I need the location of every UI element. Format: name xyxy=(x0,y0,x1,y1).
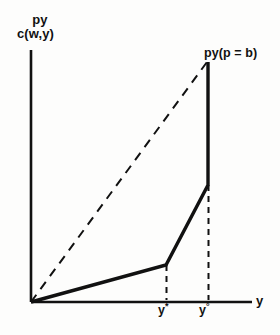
x-tick-label-y-star-base: y xyxy=(158,303,165,317)
x-tick-label-y-nought-superscript: ° xyxy=(206,301,210,311)
y-axis-label-line2: c(w,y) xyxy=(17,27,54,41)
x-tick-label-y-star: y* xyxy=(158,304,169,318)
y-axis-label: py c(w,y) xyxy=(17,13,54,41)
x-tick-label-y-nought-base: y xyxy=(199,303,206,317)
cost-function-figure: py c(w,y) py(p = b) y* y° y xyxy=(0,0,280,335)
y-axis-label-line1: py xyxy=(17,13,54,27)
x-tick-label-y-star-superscript: * xyxy=(165,301,169,311)
x-tick-label-y-nought: y° xyxy=(199,304,210,318)
py-equals-b-dashed-ray xyxy=(31,62,207,302)
x-axis-label: y xyxy=(256,294,263,308)
py-equals-b-label: py(p = b) xyxy=(204,47,257,61)
